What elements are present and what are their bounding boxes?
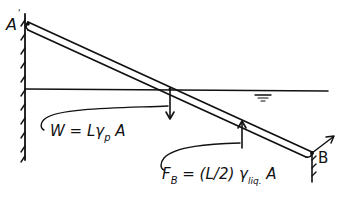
label-a-prime: ' (18, 8, 20, 18)
weight-label: W = Lγp A (50, 122, 126, 143)
svg-text:FB = (L/2) γliq. A: FB = (L/2) γliq. A (162, 165, 277, 186)
buoyancy-arrow (238, 121, 246, 148)
label-a: A (5, 15, 17, 34)
left-wall (21, 14, 25, 162)
hinge-a (26, 22, 30, 26)
buoyancy-label: FB = (L/2) γliq. A (162, 165, 277, 186)
svg-text:W = Lγp A: W = Lγp A (50, 122, 126, 143)
weight-arrow (166, 88, 174, 120)
label-b: B (318, 149, 328, 167)
diagram-canvas: A ' W = Lγp A FB = (L/2) γliq. (0, 0, 347, 200)
